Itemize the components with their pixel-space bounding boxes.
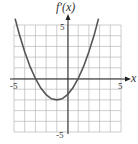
x-tick-min: -5 [10, 81, 18, 91]
y-axis-arrow-icon [66, 14, 71, 20]
y-tick-max: 5 [60, 22, 65, 32]
chart-title: f'(x) [56, 0, 75, 14]
y-tick-min: -5 [56, 130, 64, 140]
x-axis-label: x [130, 71, 137, 85]
chart: f'(x) x -5 5 5 -5 [0, 0, 138, 144]
x-tick-max: 5 [118, 81, 123, 91]
